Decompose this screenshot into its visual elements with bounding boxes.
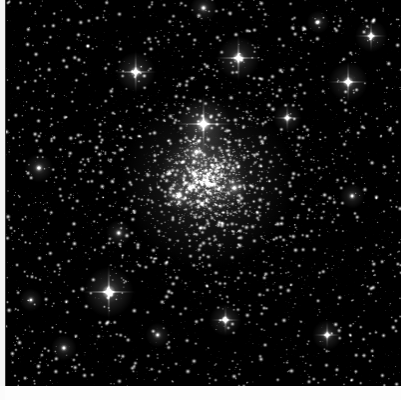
- sky-image-frame: [5, 0, 401, 386]
- caption-strip: [5, 386, 401, 400]
- star-field-canvas: [6, 0, 401, 386]
- image-viewport: A black-and-white astronomical image of …: [0, 0, 401, 400]
